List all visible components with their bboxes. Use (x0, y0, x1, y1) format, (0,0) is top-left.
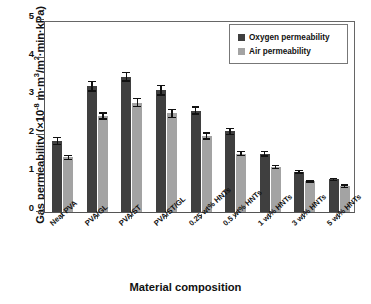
bar-oxygen (329, 179, 339, 212)
error-bar (229, 128, 230, 136)
bar-group (87, 22, 108, 212)
y-axis-tick-label: 2 (18, 126, 34, 136)
y-axis-tick-label: 4 (18, 49, 34, 59)
error-bar (206, 132, 207, 140)
y-axis-tick (36, 211, 44, 212)
legend-swatch-icon (238, 34, 245, 41)
bar-oxygen (294, 172, 304, 212)
error-bar (275, 165, 276, 170)
error-bar (137, 98, 138, 107)
legend-item: Air permeability (238, 44, 341, 58)
error-bar (309, 180, 310, 183)
bar-group (156, 22, 177, 212)
error-bar (57, 137, 58, 145)
bar-air (167, 113, 177, 212)
bar-oxygen (191, 111, 201, 212)
bar-group (121, 22, 142, 212)
error-bar (102, 112, 103, 120)
bar-oxygen (87, 86, 97, 212)
y-axis-exponent: -8 (32, 104, 41, 110)
y-axis-tick-label: 0 (18, 203, 34, 213)
chart-legend: Oxygen permeabilityAir permeability (229, 24, 348, 64)
y-axis-tick (36, 134, 44, 135)
y-axis-tick-label: 1 (18, 164, 34, 174)
error-bar (264, 151, 265, 157)
bar-oxygen (156, 90, 166, 212)
gas-permeability-bar-chart: Gas permeability (×10-8 m·m3/m2·min·kPa)… (0, 0, 371, 304)
error-bar (160, 85, 161, 96)
y-axis-tick (36, 19, 44, 20)
error-bar (171, 109, 172, 118)
bar-air (98, 116, 108, 212)
error-bar (333, 178, 334, 181)
legend-label: Oxygen permeability (249, 33, 330, 42)
y-axis-tick (36, 96, 44, 97)
bar-oxygen (260, 154, 270, 212)
error-bar (91, 81, 92, 92)
y-axis-exponent-a: 3 (32, 73, 41, 77)
error-bar (195, 106, 196, 114)
error-bar (298, 170, 299, 174)
error-bar (344, 184, 345, 188)
bar-group (52, 22, 73, 212)
y-axis-tick-label: 3 (18, 87, 34, 97)
legend-label: Air permeability (249, 47, 311, 56)
y-axis-tick (36, 173, 44, 174)
error-bar (240, 151, 241, 156)
bar-air (132, 103, 142, 212)
legend-swatch-icon (238, 48, 245, 55)
bar-oxygen (121, 77, 131, 212)
bar-oxygen (225, 131, 235, 212)
y-axis-tick-label: 5 (18, 11, 34, 21)
error-bar (126, 72, 127, 82)
legend-item: Oxygen permeability (238, 30, 341, 44)
bar-oxygen (52, 141, 62, 212)
x-axis-title: Material composition (0, 281, 371, 293)
y-axis-tick (36, 57, 44, 58)
bar-group (191, 22, 212, 212)
error-bar (68, 155, 69, 160)
